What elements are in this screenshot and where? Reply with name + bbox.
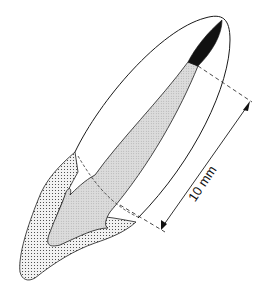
extension-line-top bbox=[198, 66, 252, 102]
root-canal bbox=[48, 62, 198, 246]
measurement-label: 10 mm bbox=[185, 163, 220, 204]
apex-filling bbox=[188, 20, 222, 66]
arrow-head-top bbox=[243, 101, 250, 111]
tooth-diagram: 10 mm bbox=[0, 0, 265, 294]
